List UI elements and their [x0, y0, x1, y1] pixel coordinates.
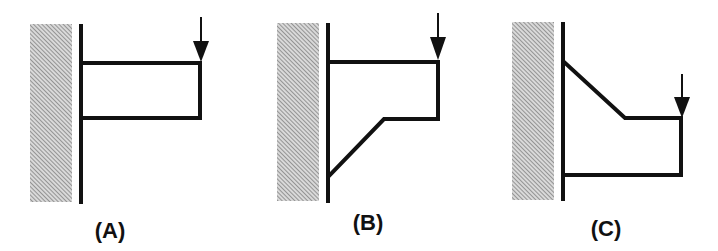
panel-label: (A) — [95, 218, 126, 243]
bracket-outline — [563, 62, 681, 175]
panel-c: (C) — [512, 22, 690, 241]
wall-hatch — [30, 24, 72, 202]
panel-b: (B) — [277, 13, 446, 235]
panel-a: (A) — [30, 17, 209, 243]
load-arrow-icon — [674, 74, 690, 118]
load-arrow-icon — [430, 13, 446, 60]
wall-hatch — [277, 23, 319, 201]
wall-hatch — [512, 22, 554, 200]
panel-label: (C) — [591, 216, 622, 241]
cantilever-bracket-diagram: (A) (B) (C) — [0, 0, 718, 251]
bracket-outline — [81, 63, 200, 118]
load-arrow-icon — [193, 17, 209, 62]
bracket-outline — [328, 62, 438, 176]
panel-label: (B) — [353, 210, 384, 235]
